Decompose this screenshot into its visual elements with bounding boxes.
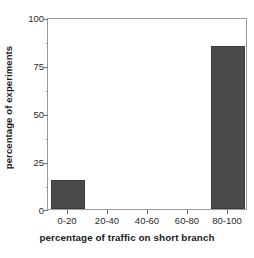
- y-minor-tick: [46, 139, 49, 140]
- y-tick-mark-50: [44, 115, 48, 116]
- y-minor-tick: [46, 187, 49, 188]
- x-tick-mark: [107, 210, 108, 214]
- y-tick-mark-75: [44, 67, 48, 68]
- x-tick-mark: [227, 210, 228, 214]
- x-tick-label: 40-60: [135, 215, 159, 226]
- x-tick-label: 0-20: [57, 215, 76, 226]
- y-tick-mark-25: [44, 163, 48, 164]
- x-axis-tick-labels: 0-20 20-40 40-60 60-80 80-100: [47, 215, 247, 229]
- y-minor-tick: [46, 91, 49, 92]
- y-axis-tick-labels: 100 75 50 25 0: [14, 0, 44, 258]
- x-tick-label: 80-100: [212, 215, 242, 226]
- y-axis-title-text: percentage of experiments: [4, 45, 15, 168]
- bar-80-100: [211, 46, 245, 209]
- x-axis-title: percentage of traffic on short branch: [0, 232, 254, 243]
- x-tick-mark: [67, 210, 68, 214]
- plot-area: [47, 18, 247, 210]
- x-tick-mark: [187, 210, 188, 214]
- y-tick-label: 100: [18, 14, 44, 23]
- x-tick-label: 60-80: [175, 215, 199, 226]
- x-tick-label: 20-40: [95, 215, 119, 226]
- y-tick-label: 25: [18, 158, 44, 167]
- y-tick-mark-100: [44, 19, 48, 20]
- bar-0-20: [51, 180, 85, 209]
- y-tick-label: 0: [18, 206, 44, 215]
- x-tick-mark: [147, 210, 148, 214]
- bar-chart-figure: percentage of experiments 100 75 50 25 0: [0, 0, 254, 258]
- y-tick-label: 75: [18, 62, 44, 71]
- y-minor-tick: [46, 43, 49, 44]
- y-tick-label: 50: [18, 110, 44, 119]
